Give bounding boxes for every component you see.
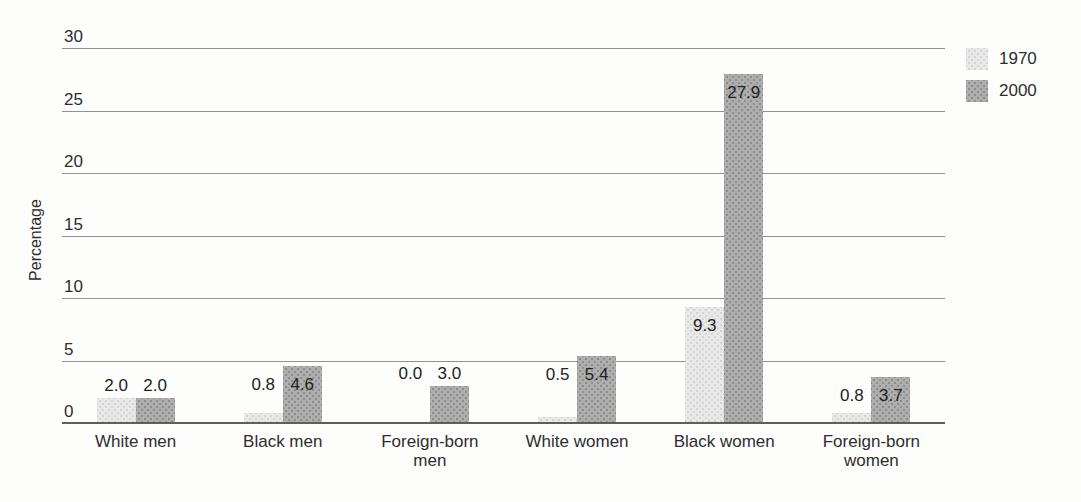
x-axis-line (62, 422, 945, 424)
gridline-5 (62, 361, 945, 362)
y-tick-label-30: 30 (64, 28, 83, 46)
value-label-2000-1: 4.6 (270, 376, 334, 394)
value-label-2000-3: 5.4 (565, 366, 629, 384)
y-tick-label-5: 5 (64, 341, 73, 359)
y-axis-label: Percentage (27, 178, 45, 302)
bar-2000-0 (136, 398, 175, 423)
value-label-2000-5: 3.7 (859, 387, 923, 405)
category-label-1: Black men (224, 432, 342, 451)
y-tick-label-15: 15 (64, 216, 83, 234)
category-label-0: White men (77, 432, 195, 451)
y-tick-label-0: 0 (64, 403, 73, 421)
category-label-4: Black women (665, 432, 783, 451)
bar-2000-4 (724, 74, 763, 423)
legend-swatch-2000 (966, 80, 988, 102)
category-label-3: White women (518, 432, 636, 451)
category-label-5: Foreign-born women (812, 432, 930, 470)
y-tick-label-10: 10 (64, 278, 83, 296)
bar-2000-2 (430, 386, 469, 424)
value-label-2000-0: 2.0 (123, 377, 187, 395)
legend-item-1970: 1970 (966, 48, 1037, 70)
legend: 1970 2000 (966, 48, 1037, 112)
gridline-15 (62, 236, 945, 237)
legend-label-2000: 2000 (999, 80, 1037, 102)
value-label-2000-2: 3.0 (417, 365, 481, 383)
legend-swatch-1970 (966, 48, 988, 70)
gridline-10 (62, 298, 945, 299)
value-label-2000-4: 27.9 (712, 84, 776, 102)
legend-item-2000: 2000 (966, 80, 1037, 102)
gridline-30 (62, 48, 945, 49)
gridline-20 (62, 173, 945, 174)
y-tick-label-20: 20 (64, 153, 83, 171)
legend-label-1970: 1970 (999, 48, 1037, 70)
category-label-2: Foreign-born men (371, 432, 489, 470)
bar-1970-0 (97, 398, 136, 423)
bar-chart: Percentage 1970 2000 0510152025302.02.0W… (0, 0, 1081, 502)
gridline-25 (62, 111, 945, 112)
y-tick-label-25: 25 (64, 91, 83, 109)
value-label-1970-4: 9.3 (673, 317, 737, 335)
